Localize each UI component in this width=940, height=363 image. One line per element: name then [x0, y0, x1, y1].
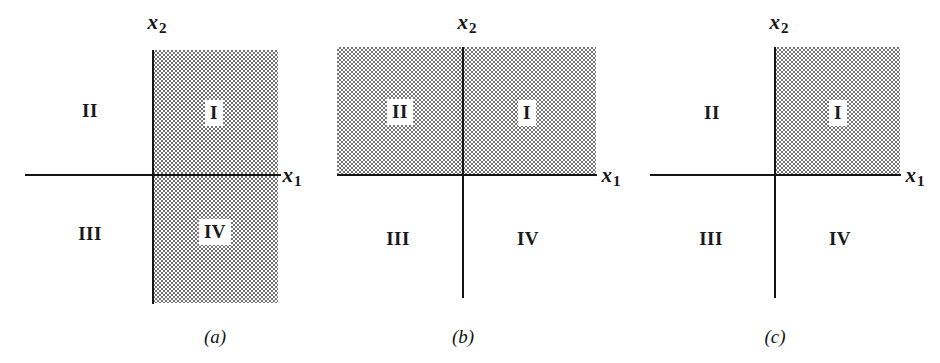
axis-subscript: 2 — [781, 20, 789, 36]
axis-subscript: 1 — [917, 173, 925, 189]
panel-caption-c: (c) — [764, 327, 785, 346]
quadrant-label-ii-c: II — [704, 103, 720, 122]
axis-variable: x — [770, 10, 781, 34]
quadrant-figure: x1x2IIIIIIIV(a)x1x2IIIIIIIV(b)x1x2IIIIII… — [0, 0, 940, 363]
axis-variable: x — [906, 163, 917, 187]
x1-axis-label-c: x1 — [906, 165, 925, 189]
panel-c: x1x2IIIIIIIV(c) — [0, 0, 940, 363]
quadrant-label-i-c: I — [829, 100, 847, 126]
quadrant-label-iv-c: IV — [829, 229, 851, 248]
x2-axis-c — [774, 47, 776, 298]
x2-axis-label-c: x2 — [770, 12, 789, 36]
caption-text: (c) — [764, 326, 785, 347]
quadrant-label-iii-c: III — [699, 229, 723, 248]
